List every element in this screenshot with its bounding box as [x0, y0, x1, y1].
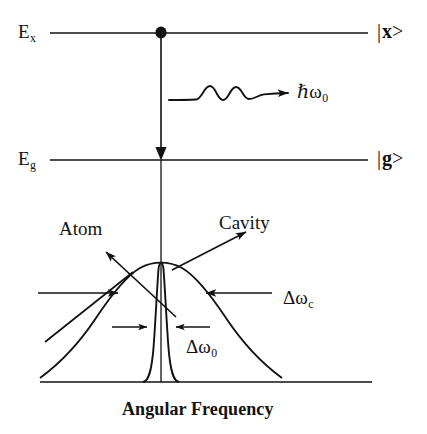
- cavity-delta-symbol: Δ: [283, 287, 295, 308]
- ket-close-excited: >: [392, 20, 403, 42]
- energy-level-diagram: Ex |x> Eg |g> ℏω0 Atom Cavity Δωc Δω0 An…: [0, 0, 427, 434]
- diagram-canvas: [0, 0, 427, 434]
- transition-arrow-head: [155, 147, 166, 161]
- photon-energy-label: ℏω0: [297, 82, 328, 101]
- ground-state-energy-symbol: E: [18, 148, 30, 169]
- omega-symbol: ω: [309, 81, 322, 102]
- cavity-linewidth-subscript: c: [308, 298, 313, 311]
- cavity-omega-symbol: ω: [295, 287, 308, 308]
- ground-state-energy-subscript: g: [30, 159, 36, 172]
- cavity-linewidth-label: Δωc: [283, 288, 313, 307]
- ket-symbol-excited: x: [382, 20, 392, 42]
- cavity-left-wing-indicator-line: [45, 272, 133, 342]
- excited-state-ket-label: |x>: [377, 21, 403, 41]
- atom-linewidth-label: Δω0: [186, 337, 217, 356]
- hbar-symbol: ℏ: [297, 81, 309, 102]
- photon-omega-subscript: 0: [322, 92, 328, 105]
- cavity-label-pointer-arrow: [172, 232, 246, 270]
- ground-state-ket-label: |g>: [377, 148, 403, 168]
- ket-close-ground: >: [392, 147, 403, 169]
- atom-linewidth-subscript: 0: [211, 347, 217, 360]
- atom-curve-label: Atom: [59, 219, 102, 238]
- angular-frequency-axis-title: Angular Frequency: [122, 400, 274, 418]
- atom-omega-symbol: ω: [198, 336, 211, 357]
- excited-state-population-dot: [155, 27, 166, 39]
- excited-state-energy-symbol: E: [18, 21, 30, 42]
- atom-delta-symbol: Δ: [186, 336, 198, 357]
- ket-symbol-ground: g: [382, 147, 392, 169]
- ground-state-energy-label: Eg: [18, 149, 36, 168]
- emitted-photon-wavy-arrow: [169, 86, 288, 100]
- excited-state-energy-label: Ex: [18, 22, 36, 41]
- excited-state-energy-subscript: x: [30, 32, 36, 45]
- cavity-curve-label: Cavity: [219, 213, 270, 232]
